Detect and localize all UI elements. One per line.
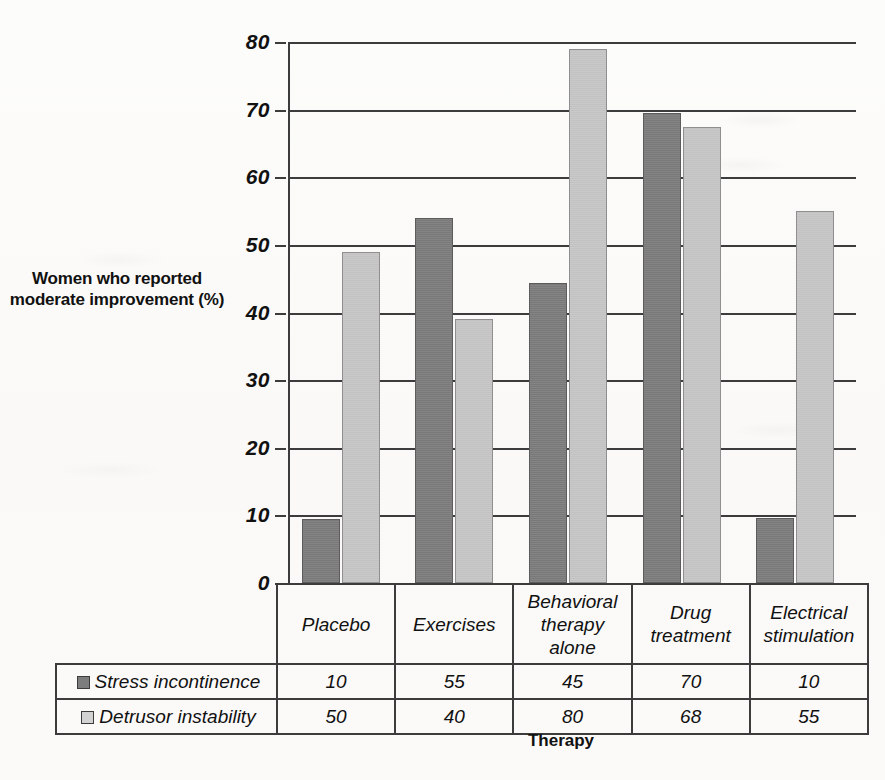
legend-item-stress-incontinence: Stress incontinence <box>56 664 277 699</box>
gridline-80 <box>288 42 856 44</box>
table-column-header-2: Behavioraltherapyalone <box>513 584 631 664</box>
table-cell: 50 <box>277 699 395 734</box>
y-tick-label-80: 80 <box>224 30 270 54</box>
bar-electrical-stimulation-stress-incontinence <box>756 518 794 583</box>
legend-swatch-icon <box>81 711 94 724</box>
table-cell: 70 <box>632 664 750 699</box>
table-corner-cell <box>56 584 277 664</box>
table-cell: 45 <box>513 664 631 699</box>
y-tick-40 <box>275 313 286 315</box>
bar-behavioral-therapy-alone-stress-incontinence <box>529 283 567 583</box>
y-tick-label-50: 50 <box>224 233 270 257</box>
x-axis-title: Therapy <box>456 731 666 751</box>
y-tick-label-40: 40 <box>224 301 270 325</box>
table-column-header-0: Placebo <box>277 584 395 664</box>
table-cell: 40 <box>395 699 513 734</box>
y-tick-50 <box>275 245 286 247</box>
table-row: Detrusor instability5040806855 <box>56 699 868 734</box>
y-tick-70 <box>275 110 286 112</box>
table-column-header-1: Exercises <box>395 584 513 664</box>
legend-swatch-icon <box>77 676 90 689</box>
y-tick-label-20: 20 <box>224 436 270 460</box>
y-tick-60 <box>275 177 286 179</box>
bar-placebo-detrusor-instability <box>342 252 380 583</box>
table-cell: 68 <box>632 699 750 734</box>
table-cell: 10 <box>277 664 395 699</box>
legend-label: Stress incontinence <box>95 671 261 692</box>
bar-chart: Women who reported moderate improvement … <box>0 0 885 780</box>
table-cell: 55 <box>750 699 868 734</box>
table-category-header-row: PlaceboExercisesBehavioraltherapyaloneDr… <box>56 584 868 664</box>
chart-data-table: PlaceboExercisesBehavioraltherapyaloneDr… <box>55 583 869 735</box>
bar-electrical-stimulation-detrusor-instability <box>796 211 834 583</box>
bar-drug-treatment-detrusor-instability <box>683 127 721 583</box>
table-cell: 80 <box>513 699 631 734</box>
legend-label: Detrusor instability <box>99 706 255 727</box>
y-tick-20 <box>275 448 286 450</box>
y-axis-title: Women who reported moderate improvement … <box>8 268 226 310</box>
bar-placebo-stress-incontinence <box>302 519 340 583</box>
table-column-header-4: Electricalstimulation <box>750 584 868 664</box>
y-tick-30 <box>275 380 286 382</box>
y-tick-10 <box>275 515 286 517</box>
y-tick-label-60: 60 <box>224 165 270 189</box>
bar-behavioral-therapy-alone-detrusor-instability <box>569 49 607 583</box>
legend-item-detrusor-instability: Detrusor instability <box>56 699 277 734</box>
y-tick-80 <box>275 42 286 44</box>
y-tick-label-70: 70 <box>224 98 270 122</box>
table-row: Stress incontinence1055457010 <box>56 664 868 699</box>
y-tick-label-30: 30 <box>224 368 270 392</box>
bar-drug-treatment-stress-incontinence <box>643 113 681 583</box>
table-column-header-3: Drugtreatment <box>632 584 750 664</box>
bar-exercises-detrusor-instability <box>455 319 493 583</box>
bar-exercises-stress-incontinence <box>415 218 453 583</box>
y-tick-label-10: 10 <box>224 503 270 527</box>
table-cell: 55 <box>395 664 513 699</box>
plot-area: 01020304050607080 <box>288 42 856 583</box>
table-cell: 10 <box>750 664 868 699</box>
